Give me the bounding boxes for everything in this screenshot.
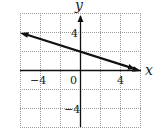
x-tick-0: 0 [70, 74, 77, 87]
arrowhead-left-icon [20, 32, 29, 38]
x-tick-4: 4 [117, 74, 124, 87]
coordinate-plane: y x −4 0 4 4 −4 [0, 0, 168, 135]
y-tick-4: 4 [71, 27, 78, 40]
x-axis-label: x [145, 62, 153, 78]
y-axis-label: y [74, 0, 84, 13]
x-tick-neg4: −4 [30, 74, 46, 87]
y-tick-neg4: −4 [64, 103, 80, 116]
arrowhead-right-icon [132, 66, 141, 72]
